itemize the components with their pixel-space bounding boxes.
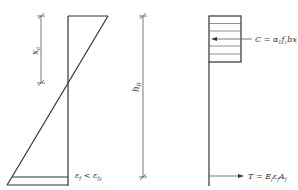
h0-dimension	[139, 13, 147, 180]
strain-inequality-label: εf < εfy	[75, 171, 102, 182]
compression-force-label: C = α1fcbx	[255, 35, 297, 45]
strain-diagonal-line	[12, 16, 108, 177]
compression-force-arrow	[211, 37, 252, 41]
arrowhead-left-icon	[211, 37, 217, 41]
strain-profile	[7, 16, 108, 186]
h0-label: h0	[131, 82, 142, 92]
bottom-slant-line	[7, 177, 12, 185]
stress-block	[209, 16, 241, 186]
xc-label: xc	[30, 46, 41, 55]
strain-stress-diagram: xc h0 εf < εfy C = α1fcbx T = EfεfAf	[0, 0, 298, 190]
tension-force-label: T = EfεfAf	[248, 172, 288, 183]
arrowhead-right-icon	[238, 174, 244, 178]
tension-force-arrow	[209, 174, 244, 178]
